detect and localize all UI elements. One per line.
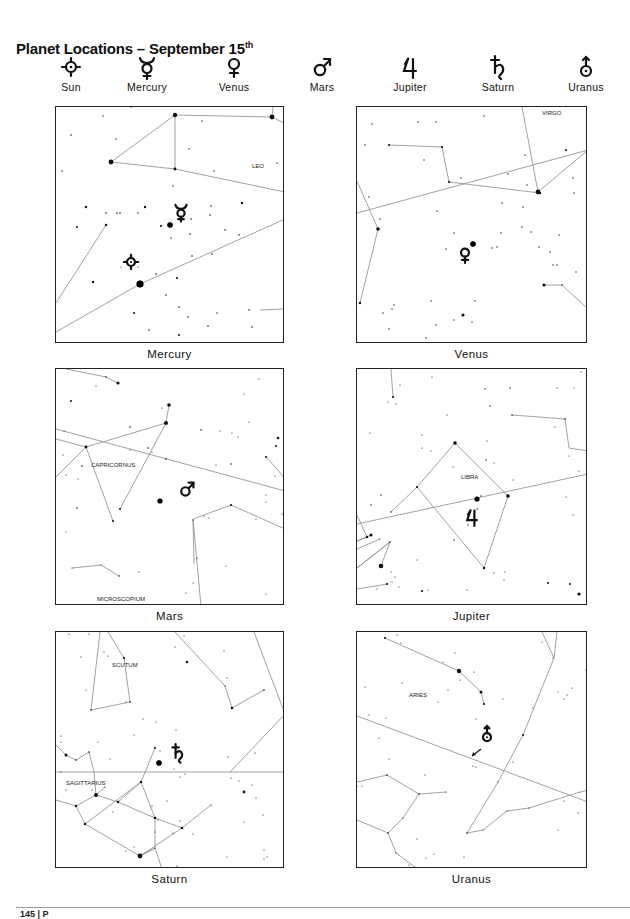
- constellation-line: [56, 748, 155, 806]
- star: [418, 793, 420, 795]
- jupiter-position-dot: [474, 496, 479, 501]
- star: [70, 134, 72, 136]
- star: [178, 306, 180, 308]
- footer-page-number: 145 | P: [20, 909, 49, 919]
- star: [155, 273, 157, 275]
- footer-divider: [16, 907, 630, 908]
- uranus-symbol-icon: [546, 54, 626, 80]
- star: [416, 486, 418, 488]
- star: [491, 247, 492, 248]
- sun-symbol-icon: [31, 54, 111, 80]
- star: [425, 337, 426, 338]
- star: [376, 227, 380, 231]
- constellation-line: [542, 632, 554, 658]
- star: [207, 325, 209, 327]
- star: [357, 785, 358, 786]
- legend-item-sun: Sun: [31, 54, 111, 93]
- star: [75, 759, 77, 761]
- star: [568, 455, 569, 456]
- jupiter-symbol-icon: [370, 54, 450, 80]
- star: [71, 567, 72, 568]
- star: [457, 669, 461, 673]
- constellation-line: [357, 820, 388, 833]
- star: [483, 567, 485, 569]
- star: [504, 571, 505, 572]
- constellation-line: [66, 369, 118, 383]
- star: [370, 504, 371, 505]
- legend-label: Jupiter: [370, 81, 450, 93]
- star: [210, 804, 211, 805]
- star: [181, 827, 184, 830]
- star: [571, 687, 572, 688]
- sky-chart: CAPRICORNUSMICROSCOPIUM: [56, 369, 284, 605]
- star: [129, 426, 131, 428]
- star: [81, 465, 83, 467]
- star: [376, 588, 377, 589]
- star: [170, 237, 171, 238]
- star: [384, 637, 386, 639]
- star: [154, 847, 155, 848]
- star: [502, 698, 503, 699]
- star: [129, 701, 131, 703]
- star: [160, 225, 162, 227]
- star: [238, 780, 239, 781]
- star: [393, 304, 394, 305]
- star: [361, 785, 362, 786]
- star: [538, 246, 539, 247]
- star-map-jupiter: LIBRA: [356, 368, 587, 605]
- star: [580, 371, 581, 372]
- constellation-label: CAPRICORNUS: [91, 462, 135, 468]
- constellation-line: [230, 714, 284, 772]
- star: [178, 334, 180, 336]
- star: [471, 321, 472, 322]
- page-title-suffix: th: [245, 40, 253, 50]
- star: [493, 572, 494, 573]
- star: [512, 761, 513, 762]
- star: [164, 421, 168, 425]
- star: [512, 479, 513, 480]
- legend-item-venus: Venus: [194, 54, 274, 93]
- star: [445, 248, 446, 249]
- constellation-line: [175, 632, 264, 708]
- constellation-line: [357, 775, 446, 794]
- star: [506, 494, 510, 498]
- star: [408, 864, 409, 865]
- star: [503, 579, 504, 580]
- map-caption-jupiter: Jupiter: [356, 610, 587, 622]
- star: [390, 511, 391, 512]
- star: [248, 309, 250, 311]
- constellation-line: [72, 565, 119, 576]
- star: [151, 805, 152, 806]
- star: [103, 651, 104, 652]
- star: [105, 376, 107, 378]
- star: [466, 832, 468, 834]
- star: [85, 446, 88, 449]
- star: [266, 856, 267, 857]
- map-caption-mars: Mars: [55, 610, 284, 622]
- constellation-line: [522, 107, 587, 192]
- legend-label: Saturn: [458, 81, 538, 93]
- star: [173, 113, 177, 117]
- star-map-mercury: LEO: [55, 106, 284, 343]
- star: [480, 691, 483, 694]
- star: [431, 376, 432, 377]
- star: [151, 451, 152, 452]
- star: [368, 196, 369, 197]
- star: [77, 478, 78, 479]
- constellation-line: [467, 632, 557, 833]
- star: [573, 192, 574, 193]
- legend-item-mercury: Mercury: [107, 54, 187, 93]
- constellation-line: [357, 584, 387, 589]
- constellation-line: [76, 782, 141, 824]
- star: [243, 393, 244, 394]
- star: [528, 807, 529, 808]
- star: [65, 474, 66, 475]
- star: [62, 454, 63, 455]
- constellation-line: [391, 369, 393, 397]
- star: [480, 495, 481, 496]
- legend-label: Venus: [194, 81, 274, 93]
- star: [270, 115, 275, 120]
- star: [231, 432, 232, 433]
- star: [565, 149, 567, 151]
- star: [119, 212, 121, 214]
